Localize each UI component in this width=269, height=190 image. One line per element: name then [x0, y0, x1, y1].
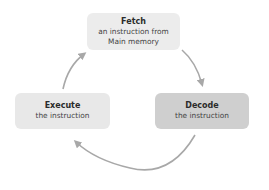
- fetch-description-line1: an instruction from: [98, 27, 169, 37]
- decode-title: Decode: [185, 101, 218, 111]
- execute-description: the instruction: [36, 111, 90, 121]
- arrow-fetch-to-decode: [182, 50, 202, 84]
- arrow-decode-to-execute: [76, 135, 195, 170]
- fetch-description-line2: Main memory: [108, 37, 159, 47]
- execute-node: Execute the instruction: [15, 93, 110, 129]
- decode-node: Decode the instruction: [155, 93, 249, 129]
- fetch-title: Fetch: [121, 17, 146, 27]
- decode-description: the instruction: [175, 111, 229, 121]
- arrow-execute-to-fetch: [63, 54, 84, 89]
- fetch-node: Fetch an instruction from Main memory: [87, 13, 180, 50]
- execute-title: Execute: [45, 101, 81, 111]
